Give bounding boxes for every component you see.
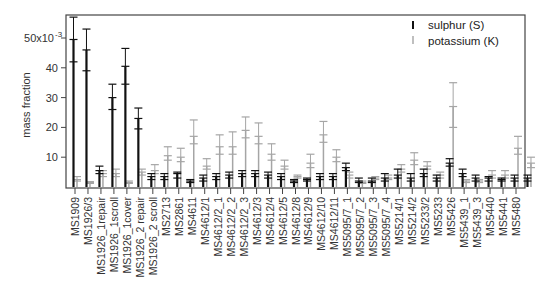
x-tick-label: MS1926/3 (82, 197, 94, 245)
x-tick-label: MS5440 (484, 197, 496, 236)
x-tick-label: MS5426 (445, 197, 457, 236)
x-tick-label: MS1926_2 scroll (147, 197, 159, 275)
x-tick-label: MS2861 (173, 197, 185, 236)
y-tick-label: 40 (46, 62, 58, 74)
x-tick-label: MS4612/11 (328, 197, 340, 250)
x-tick-label: MS1909 (69, 197, 81, 236)
x-tick-label: MS4612/9 (302, 197, 314, 245)
x-tick-label: MS2713 (160, 197, 172, 236)
x-tick-label: MS5095/7_1 (341, 197, 353, 257)
x-tick-label: MS5439_1 (458, 197, 470, 248)
y-tick-label: 30 (46, 92, 58, 104)
x-tick-label: MS1926_1cover (121, 197, 133, 274)
x-tick-label: MS4612/2_2 (225, 197, 237, 257)
x-tick-label: MS5095/7_2 (354, 197, 366, 257)
x-tick-label: MS5441 (497, 197, 509, 236)
y-tick-label: 50x10 (24, 32, 54, 44)
y-tick-label: 10 (46, 151, 58, 163)
x-tick-label: MS4612/1 (199, 197, 211, 245)
x-tick-label: MS5233/2 (419, 197, 431, 245)
x-tick-label: MS4611 (186, 197, 198, 235)
y-tick-exponent: -3 (55, 30, 63, 39)
x-tick-label: MS1926_1scroll (108, 197, 120, 272)
legend-sulphur-label: sulphur (S) (428, 19, 484, 31)
x-tick-label: MS4612/5 (277, 197, 289, 245)
x-tick-label: MS4612/3 (251, 197, 263, 245)
x-tick-label: MS5214/2 (406, 197, 418, 245)
x-tick-label: MS5214/1 (393, 197, 405, 245)
x-tick-label: MS4612/2_3 (238, 197, 250, 257)
x-tick-label: MS5095/7_4 (380, 197, 392, 257)
x-tick-label: MS1926_2 repair (134, 197, 146, 278)
legend-potassium-label: potassium (K) (428, 35, 499, 47)
x-tick-label: MS4612/10 (315, 197, 327, 251)
x-tick-label: MS1926_1repair (95, 197, 107, 275)
chart: 1020304050x10-3 MS1909MS1926/3MS1926_1re… (0, 0, 546, 288)
y-tick-label: 20 (46, 121, 58, 133)
x-tick-label: MS5439_3 (471, 197, 483, 248)
x-tick-label: MS5480 (510, 197, 522, 236)
x-tick-label: MS4612/4 (264, 197, 276, 245)
x-axis: MS1909MS1926/3MS1926_1repairMS1926_1scro… (69, 188, 522, 278)
x-tick-label: MS5233 (432, 197, 444, 236)
y-axis-label: mass fraction (20, 72, 32, 137)
x-tick-label: MS4612/8 (290, 197, 302, 245)
x-tick-label: MS4612/2_1 (212, 197, 224, 257)
x-tick-label: MS5095/7_3 (367, 197, 379, 257)
